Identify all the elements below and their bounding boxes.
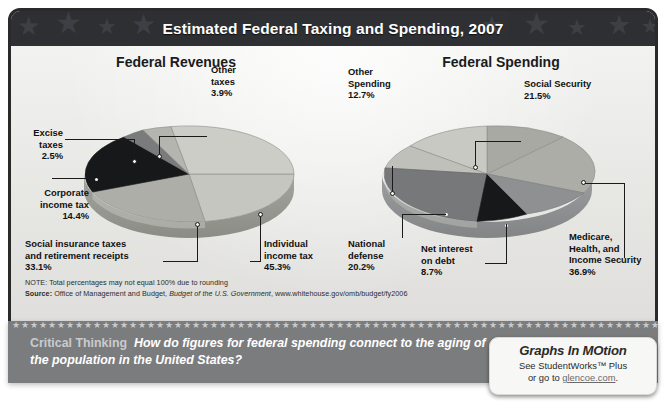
star-icon: ★ xyxy=(120,321,128,331)
star-icon: ★ xyxy=(588,321,596,331)
leader-line-corporate xyxy=(52,178,97,179)
star-icon: ★ xyxy=(615,321,623,331)
figure-container: ★★★★★★★★★★ Estimated Federal Taxing and … xyxy=(8,8,658,340)
leader-line-individual-v xyxy=(260,214,261,262)
pie-svg-left xyxy=(79,108,299,240)
label-social-insurance-taxes: Social insurance taxes and retirement re… xyxy=(25,238,160,273)
star-icon: ★ xyxy=(30,321,38,331)
figure-header: ★★★★★★★★★★ Estimated Federal Taxing and … xyxy=(11,11,655,46)
star-icon: ★ xyxy=(390,321,398,331)
leader-line-social-security xyxy=(475,141,521,142)
star-icon: ★ xyxy=(597,321,605,331)
glencoe-link[interactable]: glencoe.com xyxy=(562,372,615,383)
leader-line-excise-v xyxy=(134,139,135,161)
label-social-security: Social Security 21.5% xyxy=(524,78,624,101)
pie-svg-right xyxy=(377,108,597,240)
star-icon: ★ xyxy=(525,321,533,331)
source-text-2: , www.whitehouse.gov/omb/budget/fy2006 xyxy=(271,289,408,298)
label-individual-income-tax: Individual income tax 45.3% xyxy=(264,238,338,273)
star-icon: ★ xyxy=(102,321,110,331)
star-icon: ★ xyxy=(471,321,479,331)
chart-title-left: Federal Revenues xyxy=(11,54,341,70)
critical-thinking-text: Critical Thinking How do figures for fed… xyxy=(30,335,500,369)
star-icon: ★ xyxy=(606,321,614,331)
star-icon: ★ xyxy=(48,321,56,331)
leader-dot-social-insurance xyxy=(195,222,200,227)
star-divider: ★★★★★★★★★★★★★★★★★★★★★★★★★★★★★★★★★★★★★★★★… xyxy=(8,321,658,332)
leader-line-other-taxes-v xyxy=(159,136,160,156)
leader-line-other-spending-v xyxy=(392,166,393,193)
star-icon: ★ xyxy=(372,321,380,331)
star-icon: ★ xyxy=(75,321,83,331)
star-icon: ★ xyxy=(417,321,425,331)
label-national-defense: National defense 20.2% xyxy=(348,238,410,273)
star-icon: ★ xyxy=(336,321,344,331)
star-icon: ★ xyxy=(300,321,308,331)
star-icon: ★ xyxy=(453,321,461,331)
star-icon: ★ xyxy=(642,321,650,331)
star-icon: ★ xyxy=(156,321,164,331)
star-icon: ★ xyxy=(345,321,353,331)
badge-line-2: or go to glencoe.com. xyxy=(490,372,656,383)
label-other-spending: Other Spending 12.7% xyxy=(348,66,414,101)
star-icon: ★ xyxy=(291,321,299,331)
star-icon: ★ xyxy=(192,321,200,331)
leader-dot-excise xyxy=(132,159,137,164)
star-icon: ★ xyxy=(210,321,218,331)
leader-line-national-defense xyxy=(402,214,446,215)
leader-dot-corporate xyxy=(95,178,98,181)
star-icon: ★ xyxy=(174,321,182,331)
star-icon: ★ xyxy=(147,321,155,331)
star-icon: ★ xyxy=(66,321,74,331)
leader-line-other-taxes xyxy=(159,136,207,137)
graphs-in-motion-badge[interactable]: Graphs In MOtion See StudentWorks™ Plus … xyxy=(489,337,657,395)
star-icon: ★ xyxy=(309,321,317,331)
star-icon: ★ xyxy=(21,321,29,331)
star-icon: ★ xyxy=(327,321,335,331)
star-icon: ★ xyxy=(12,321,20,331)
star-icon: ★ xyxy=(264,321,272,331)
star-icon: ★ xyxy=(282,321,290,331)
leader-line-social-insurance-v xyxy=(197,224,198,262)
star-icon: ★ xyxy=(561,321,569,331)
star-icon: ★ xyxy=(543,321,551,331)
critical-thinking-label: Critical Thinking xyxy=(30,336,127,350)
star-icon: ★ xyxy=(228,321,236,331)
star-icon: ★ xyxy=(399,321,407,331)
page-title: Estimated Federal Taxing and Spending, 2… xyxy=(11,11,655,46)
pie-chart-federal-spending xyxy=(377,108,597,240)
star-icon: ★ xyxy=(354,321,362,331)
star-icon: ★ xyxy=(651,321,658,331)
star-icon: ★ xyxy=(426,321,434,331)
star-icon: ★ xyxy=(111,321,119,331)
chart-source: Source: Office of Management and Budget,… xyxy=(25,289,407,298)
source-text-1: Office of Management and Budget, xyxy=(52,289,169,298)
label-net-interest-on-debt: Net interest on debt 8.7% xyxy=(421,243,485,278)
star-icon: ★ xyxy=(534,321,542,331)
star-icon: ★ xyxy=(138,321,146,331)
star-icon: ★ xyxy=(579,321,587,331)
star-icon: ★ xyxy=(237,321,245,331)
label-excise-taxes: Excise taxes 2.5% xyxy=(11,127,63,162)
star-icon: ★ xyxy=(93,321,101,331)
charts-panel: Federal Revenues Federal Spending xyxy=(11,46,655,340)
star-icon: ★ xyxy=(624,321,632,331)
leader-line-medicare xyxy=(585,183,625,184)
star-icon: ★ xyxy=(363,321,371,331)
star-icon: ★ xyxy=(84,321,92,331)
pie-chart-federal-revenues xyxy=(79,108,299,238)
star-icon: ★ xyxy=(165,321,173,331)
leader-line-excise xyxy=(65,139,135,140)
star-icon: ★ xyxy=(57,321,65,331)
star-icon: ★ xyxy=(183,321,191,331)
star-icon: ★ xyxy=(381,321,389,331)
star-icon: ★ xyxy=(507,321,515,331)
star-icon: ★ xyxy=(480,321,488,331)
leader-line-individual xyxy=(250,261,261,262)
badge-title: Graphs In MOtion xyxy=(490,343,656,358)
star-icon: ★ xyxy=(39,321,47,331)
leader-line-social-security-v xyxy=(475,141,476,167)
source-label: Source: xyxy=(25,289,52,298)
star-icon: ★ xyxy=(435,321,443,331)
leader-dot-other-spending xyxy=(390,191,395,196)
